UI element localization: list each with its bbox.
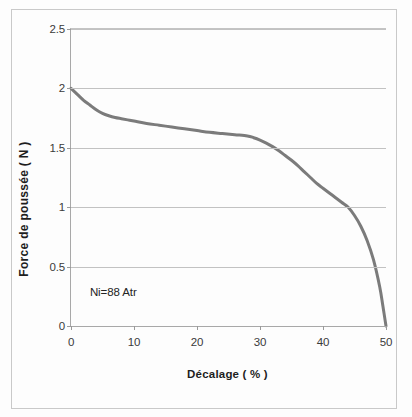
y-tick-label: 1.5 xyxy=(50,142,65,154)
y-tick-label: 2 xyxy=(59,82,65,94)
x-tick-mark xyxy=(134,326,135,330)
y-tick-mark xyxy=(67,148,71,149)
x-tick-label: 20 xyxy=(191,336,203,348)
plot-annotation-label: Ni=88 Atr xyxy=(90,286,137,298)
gridline-y xyxy=(71,29,386,30)
gridline-y xyxy=(71,267,386,268)
x-tick-label: 30 xyxy=(254,336,266,348)
y-tick-label: 0.5 xyxy=(50,260,65,272)
x-tick-mark xyxy=(71,326,72,330)
y-axis-title: Force de poussée ( N ) xyxy=(17,141,31,276)
y-tick-mark xyxy=(67,88,71,89)
x-tick-label: 10 xyxy=(128,336,140,348)
y-tick-label: 2.5 xyxy=(50,23,65,35)
data-curve xyxy=(71,29,386,326)
x-tick-mark xyxy=(323,326,324,330)
x-tick-label: 50 xyxy=(380,336,392,348)
x-tick-label: 40 xyxy=(317,336,329,348)
y-tick-mark xyxy=(67,267,71,268)
gridline-y xyxy=(71,326,386,327)
gridline-y xyxy=(71,207,386,208)
thrust-force-vs-offset-chart: Force de poussée ( N ) Ni=88 Atr 00.511.… xyxy=(0,0,412,417)
x-axis-title: Décalage ( % ) xyxy=(70,368,385,380)
y-tick-label: 1 xyxy=(59,201,65,213)
x-tick-mark xyxy=(386,326,387,330)
x-tick-mark xyxy=(260,326,261,330)
figure-page: Force de poussée ( N ) Ni=88 Atr 00.511.… xyxy=(0,0,412,417)
x-tick-mark xyxy=(197,326,198,330)
gridline-y xyxy=(71,148,386,149)
plot-area: Ni=88 Atr 00.511.522.501020304050 xyxy=(70,28,386,326)
gridline-y xyxy=(71,88,386,89)
y-tick-mark xyxy=(67,207,71,208)
y-tick-mark xyxy=(67,29,71,30)
x-tick-label: 0 xyxy=(68,336,74,348)
y-tick-label: 0 xyxy=(59,320,65,332)
